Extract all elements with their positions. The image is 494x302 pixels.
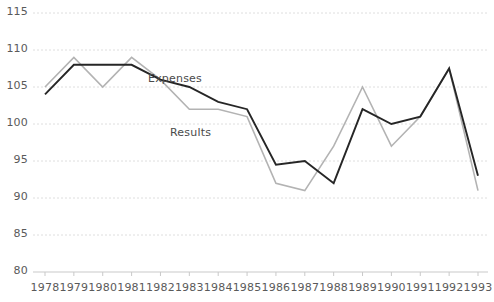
series-label-expenses: Expenses — [148, 72, 202, 85]
y-axis-tick-label: 95 — [0, 153, 28, 166]
y-axis-tick-label: 115 — [0, 5, 28, 18]
gridlines — [33, 13, 488, 272]
y-axis-tick-label: 100 — [0, 116, 28, 129]
y-axis-tick-label: 110 — [0, 42, 28, 55]
plot-area: 80859095100105110115 1978197919801981198… — [0, 0, 494, 302]
x-axis-tick-label: 1993 — [461, 281, 494, 294]
y-axis-tick-label: 80 — [0, 264, 28, 277]
line-chart: 80859095100105110115 1978197919801981198… — [0, 0, 494, 302]
axis-tickmarks — [45, 272, 478, 276]
chart-canvas — [0, 0, 494, 302]
series-label-results: Results — [170, 126, 211, 139]
y-axis-tick-label: 105 — [0, 79, 28, 92]
y-axis-tick-label: 90 — [0, 190, 28, 203]
y-axis-tick-label: 85 — [0, 227, 28, 240]
